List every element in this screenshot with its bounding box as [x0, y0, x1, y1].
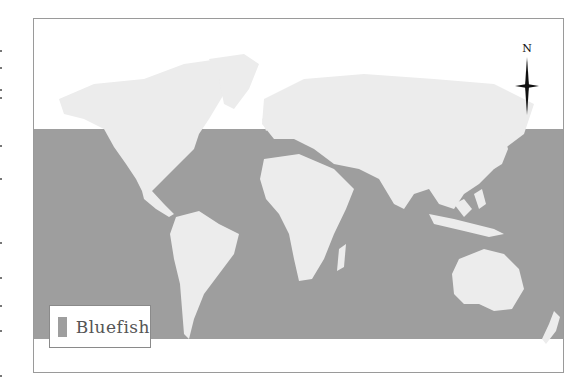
compass-north-label: N [522, 42, 532, 55]
page-edge-marks [0, 0, 4, 392]
legend-label-bluefish: Bluefish [76, 317, 150, 337]
north-arrow-icon: N [512, 41, 542, 121]
legend-swatch-bluefish [58, 317, 67, 337]
map-frame: N Bluefish [33, 18, 564, 373]
map-legend: Bluefish [49, 305, 151, 348]
